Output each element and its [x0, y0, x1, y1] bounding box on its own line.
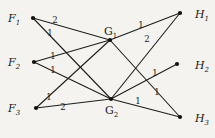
- edge-weight-f1-g1: 2: [52, 15, 57, 25]
- node-h2: [175, 62, 179, 66]
- node-g1: [108, 38, 112, 42]
- node-label-h3: H3: [194, 112, 210, 127]
- edge-g2-h3: [111, 99, 180, 117]
- edge-weight-g2-h2: 1: [152, 68, 157, 78]
- node-g2: [109, 97, 113, 101]
- node-label-f2: F2: [7, 56, 21, 71]
- edge-weight-g2-h1: 2: [144, 34, 149, 44]
- node-label-f3: F3: [7, 102, 21, 117]
- edge-weight-f3-g2: 2: [60, 102, 65, 112]
- edge-g2-h2: [111, 64, 177, 99]
- node-f3: [34, 106, 38, 110]
- edge-weight-g2-h3: 1: [135, 96, 140, 106]
- node-label-h2: H2: [194, 59, 210, 74]
- node-f1: [31, 16, 35, 20]
- edge-weight-f1-g2: 1: [47, 28, 52, 38]
- edge-weight-g1-h3: 1: [154, 87, 159, 97]
- edge-weight-g1-h1: 1: [138, 20, 143, 30]
- node-label-h1: H1: [194, 8, 209, 23]
- edge-weights-group: 21111211211: [46, 15, 159, 112]
- edge-weight-f2-g1: 1: [50, 51, 55, 61]
- edge-weight-f2-g2: 1: [50, 65, 55, 75]
- bipartite-graph-diagram: 21111211211 F1F2F3G1G2H1H2H3: [0, 0, 215, 138]
- edge-g1-h3: [110, 40, 180, 117]
- node-label-g1: G1: [104, 25, 117, 40]
- edge-weight-f3-g1: 1: [46, 92, 51, 102]
- node-f2: [32, 60, 36, 64]
- node-h3: [178, 115, 182, 119]
- node-label-f1: F1: [7, 12, 20, 27]
- node-label-g2: G2: [105, 104, 118, 119]
- node-h1: [178, 11, 182, 15]
- edge-f1-g1: [33, 18, 110, 40]
